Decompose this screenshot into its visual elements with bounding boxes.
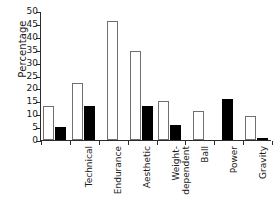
y-tick-label: 0	[32, 135, 38, 146]
y-tick-label: 25	[27, 71, 38, 82]
y-tick-label: 5	[32, 122, 38, 133]
bar-black	[170, 125, 181, 140]
y-tick-label: 20	[27, 83, 38, 94]
x-axis-line	[40, 140, 271, 141]
bar-white	[107, 21, 118, 140]
bar-white	[130, 51, 141, 140]
x-category-label: Ball	[201, 146, 211, 198]
bar-white	[245, 116, 256, 140]
bar-black	[222, 99, 233, 140]
y-tick-label: 30	[27, 58, 38, 69]
x-category-label: Aesthetic	[143, 146, 153, 198]
y-tick-label: 10	[27, 109, 38, 120]
x-tick-mark	[41, 141, 42, 145]
y-tick-label: 50	[27, 6, 38, 17]
x-category-label: Endurance	[114, 146, 124, 198]
y-tick-label: 40	[27, 32, 38, 43]
bar-black	[84, 106, 95, 140]
x-tick-mark	[157, 141, 158, 145]
bar-white	[158, 101, 169, 140]
x-tick-mark	[272, 141, 273, 145]
x-category-label: Technical	[85, 146, 95, 198]
bar-white	[72, 83, 83, 140]
x-category-label: Gravity	[259, 146, 269, 198]
x-tick-mark	[128, 141, 129, 145]
bar-black	[142, 106, 153, 140]
x-tick-mark	[70, 141, 71, 145]
x-category-label: Weight- dependent	[172, 146, 191, 198]
plot-area: 05101520253035404550	[40, 12, 271, 141]
bar-black	[55, 127, 66, 140]
bar-white	[43, 106, 54, 140]
bar-chart: Percentage 05101520253035404550 Technica…	[0, 0, 275, 198]
x-category-label: Power	[230, 146, 240, 198]
x-tick-mark	[214, 141, 215, 145]
bar-black	[257, 138, 268, 140]
x-tick-mark	[243, 141, 244, 145]
x-tick-mark	[99, 141, 100, 145]
y-axis-line	[40, 12, 41, 142]
y-tick-label: 45	[27, 19, 38, 30]
y-tick-label: 15	[27, 96, 38, 107]
y-tick-label: 35	[27, 45, 38, 56]
bar-white	[193, 111, 204, 140]
x-tick-mark	[185, 141, 186, 145]
